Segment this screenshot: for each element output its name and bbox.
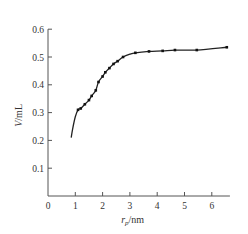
- data-point: [108, 67, 111, 70]
- axis-labels: 01234560.10.20.30.40.50.6rp/nmV/mL: [13, 25, 214, 227]
- x-tick-label: 6: [209, 201, 214, 211]
- data-point: [134, 52, 137, 55]
- y-tick-label: 0.6: [32, 25, 44, 35]
- data-point: [116, 60, 119, 63]
- data-points: [77, 46, 228, 111]
- x-tick-label: 5: [182, 201, 187, 211]
- data-point: [112, 63, 115, 66]
- data-point: [97, 81, 100, 84]
- data-point: [148, 50, 151, 53]
- data-point: [77, 109, 80, 112]
- data-point: [101, 75, 104, 78]
- y-axis-title: V/mL: [13, 104, 24, 127]
- data-point: [195, 49, 198, 52]
- y-tick-label: 0.2: [32, 136, 44, 146]
- y-tick-label: 0.3: [32, 108, 44, 118]
- x-tick-label: 3: [128, 201, 133, 211]
- x-tick-label: 2: [100, 201, 105, 211]
- data-point: [122, 56, 125, 59]
- data-point: [79, 107, 82, 110]
- data-point: [226, 46, 229, 49]
- fitted-curve: [71, 47, 227, 137]
- data-point: [90, 95, 93, 98]
- pore-volume-chart: 01234560.10.20.30.40.50.6rp/nmV/mL: [0, 0, 248, 234]
- x-tick-label: 4: [155, 201, 160, 211]
- axes: [48, 29, 230, 196]
- data-point: [161, 50, 164, 53]
- x-axis-title: rp/nm: [121, 214, 144, 227]
- data-point: [174, 49, 177, 52]
- fit-line: [71, 47, 227, 137]
- x-tick-label: 1: [73, 201, 78, 211]
- x-tick-label: 0: [46, 201, 51, 211]
- data-point: [94, 89, 97, 92]
- y-tick-label: 0.1: [32, 164, 44, 174]
- data-point: [104, 71, 107, 74]
- data-point: [88, 99, 91, 102]
- y-tick-label: 0.4: [32, 80, 44, 90]
- y-tick-label: 0.5: [32, 53, 44, 63]
- data-point: [84, 103, 87, 106]
